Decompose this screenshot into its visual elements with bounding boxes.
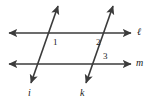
angle-label-1: 1 — [53, 38, 58, 47]
line-label-k: k — [80, 88, 84, 98]
geometry-figure — [0, 0, 148, 102]
line-label-m: m — [136, 58, 143, 68]
line-label-i: i — [28, 88, 31, 98]
diagram-canvas: 1 2 3 ℓ m i k — [0, 0, 148, 102]
angle-label-3: 3 — [103, 52, 108, 61]
angle-label-2: 2 — [96, 38, 101, 47]
line-label-ell: ℓ — [137, 27, 141, 37]
